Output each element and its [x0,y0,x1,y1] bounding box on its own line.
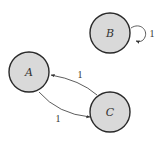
node-a-label: A [24,66,33,79]
edge-c-to-a: 1 [51,69,97,96]
graph-canvas: 1 1 1 B A C [0,0,164,142]
node-b[interactable]: B [90,13,130,53]
edge-b-self-loop-label: 1 [150,28,155,39]
node-c-label: C [106,106,115,119]
edge-c-to-a-label: 1 [78,69,83,80]
node-a[interactable]: A [9,52,49,92]
edge-b-self-loop: 1 [131,26,155,42]
edge-a-to-c-label: 1 [56,113,61,124]
edge-a-to-c: 1 [39,92,90,124]
node-b-label: B [105,27,114,40]
node-c[interactable]: C [90,92,130,132]
